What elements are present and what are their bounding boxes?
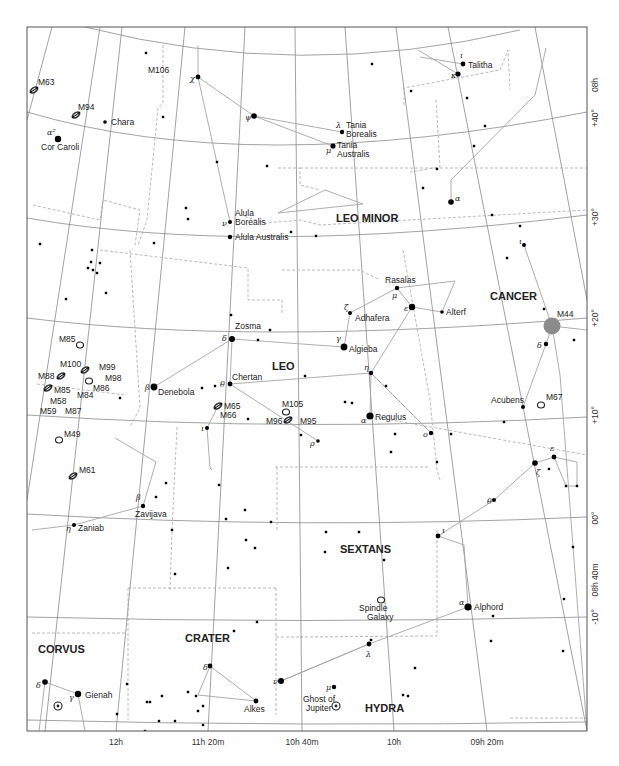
greek-letter-label: β <box>135 493 141 502</box>
field-star <box>436 168 438 170</box>
star[interactable] <box>278 678 284 684</box>
field-star <box>270 521 272 523</box>
field-star <box>230 314 232 316</box>
field-star <box>576 485 578 487</box>
star[interactable] <box>332 685 336 689</box>
star-talitha[interactable] <box>461 62 466 67</box>
ra-axis-label: 09h 20m <box>470 737 503 747</box>
greek-letter-label: ε <box>550 444 554 453</box>
star-alula-borealis[interactable] <box>228 220 232 224</box>
field-star <box>201 387 203 389</box>
star[interactable] <box>251 113 257 119</box>
open-cluster-icon[interactable] <box>283 409 290 415</box>
star-rasalas[interactable] <box>395 286 399 290</box>
star-label: Zosma <box>235 321 261 331</box>
star-zavijava[interactable] <box>141 504 145 508</box>
field-star <box>290 231 292 233</box>
star[interactable] <box>409 304 415 310</box>
star-chara[interactable] <box>103 120 107 124</box>
field-star <box>351 402 353 404</box>
field-star <box>197 710 199 712</box>
star[interactable] <box>429 431 433 435</box>
field-star <box>543 308 545 310</box>
star[interactable] <box>208 664 213 669</box>
star[interactable] <box>552 455 557 460</box>
open-cluster-icon[interactable] <box>56 437 63 443</box>
star-adhafera[interactable] <box>348 311 352 315</box>
greek-letter-label: θ <box>220 380 225 389</box>
field-star <box>174 573 176 575</box>
deep-sky-objects-layer <box>28 85 560 710</box>
galaxy-icon[interactable] <box>55 371 67 382</box>
star[interactable] <box>436 534 441 539</box>
dso-m100-label: M100 <box>60 359 82 369</box>
greek-letter-label: ζ <box>536 468 541 477</box>
dso-m49-label: M49 <box>64 429 81 439</box>
field-star <box>466 97 468 99</box>
star[interactable] <box>544 342 548 346</box>
star[interactable] <box>205 426 209 430</box>
open-cluster-icon[interactable] <box>538 402 545 408</box>
star-alula-australis[interactable] <box>228 235 232 239</box>
star-alkes[interactable] <box>254 699 259 704</box>
star-label: Alphord <box>474 602 504 612</box>
field-star <box>165 482 167 484</box>
field-star <box>158 720 160 722</box>
greek-letter-label: γ <box>336 334 341 343</box>
star[interactable] <box>369 371 373 375</box>
star-label: Zavijava <box>135 509 167 519</box>
field-star <box>92 269 94 271</box>
field-star <box>244 509 246 511</box>
star-zosma[interactable] <box>229 336 235 342</box>
field-star <box>407 695 409 697</box>
field-star <box>96 272 98 274</box>
star-label: Cor Caroli <box>41 142 79 152</box>
open-cluster-icon[interactable] <box>77 342 84 348</box>
field-star <box>385 385 387 387</box>
open-cluster-icon[interactable] <box>86 378 93 384</box>
field-star <box>162 116 164 118</box>
field-star <box>116 713 118 715</box>
dso-m84-label: M84 <box>77 390 94 400</box>
star-acubens[interactable] <box>521 405 525 409</box>
dso-ghost-of-jupiter-label: Jupiter <box>306 703 332 713</box>
star-label: Rasalas <box>385 275 416 285</box>
field-star <box>149 701 151 703</box>
star-regulus[interactable] <box>366 412 373 419</box>
star[interactable] <box>532 460 538 466</box>
star[interactable] <box>367 642 372 647</box>
field-star <box>390 451 392 453</box>
ra-axis-label: 10h 40m <box>285 737 318 747</box>
field-star <box>300 434 302 436</box>
field-star <box>145 52 147 54</box>
star-tania-borealis[interactable] <box>340 130 344 134</box>
constellation-figures <box>32 46 587 731</box>
constellation-label-sextans: SEXTANS <box>340 543 391 555</box>
star-alphord[interactable] <box>464 603 471 610</box>
dso-m63-label: M63 <box>38 77 55 87</box>
star-algieba[interactable] <box>341 344 348 351</box>
cluster-icon[interactable] <box>544 318 561 335</box>
star[interactable] <box>42 679 48 685</box>
field-star <box>225 518 227 520</box>
star-zaniab[interactable] <box>72 523 76 527</box>
greek-letter-label: ψ <box>245 113 252 122</box>
star[interactable] <box>448 199 454 205</box>
greek-letter-label: θ <box>487 497 492 506</box>
star-alterf[interactable] <box>440 310 444 314</box>
field-star <box>344 401 346 403</box>
field-star <box>216 161 218 163</box>
labels-layer: Cor Caroliα²CharaTaniaBorealisλTaniaAust… <box>36 51 574 714</box>
star[interactable] <box>316 439 320 443</box>
field-star <box>155 496 157 498</box>
star-chertan[interactable] <box>228 382 233 387</box>
planetary-nebula-icon[interactable] <box>54 702 62 710</box>
star[interactable] <box>196 75 201 80</box>
dso-m96-label: M96 <box>266 416 283 426</box>
star-label: Chertan <box>232 372 263 382</box>
star-denebola[interactable] <box>151 384 158 391</box>
star[interactable] <box>492 498 496 502</box>
star-gienah[interactable] <box>75 691 81 697</box>
field-star <box>227 567 229 569</box>
star[interactable] <box>522 243 526 247</box>
